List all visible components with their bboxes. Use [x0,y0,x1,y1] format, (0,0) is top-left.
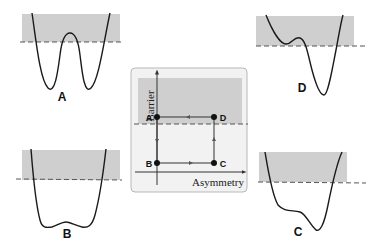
inset-phase-diagram: Barrier Asymmetry A B C D [131,68,248,192]
point-b-label: B [146,159,153,169]
panel-c: C [258,152,366,239]
point-a-label: A [146,113,153,123]
point-d [211,114,217,120]
point-b [154,160,160,166]
point-c [211,160,217,166]
panel-b: B [16,149,122,241]
point-a [154,114,160,120]
panel-label: C [294,225,303,239]
panel-label: A [58,90,67,104]
point-d-label: D [220,113,227,123]
panel-label: D [298,81,307,95]
panel-label: B [63,227,72,241]
point-c-label: C [220,159,227,169]
dashed-threshold [258,182,366,183]
diagram-canvas: A D B C Barrier Asymmetry [0,0,377,250]
panel-d: D [256,15,366,95]
panel-a: A [20,13,122,104]
x-axis-label: Asymmetry [192,176,244,188]
